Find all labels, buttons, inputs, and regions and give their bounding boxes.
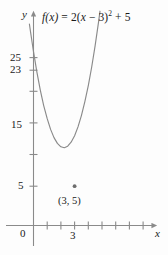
graph-figure: f(x) = 2(x − 3)2 + 5 25 23 15 5 0 3 y x … — [0, 0, 168, 255]
plot-canvas — [0, 0, 168, 255]
equation-minus-sign: − — [86, 11, 99, 23]
equation-equals: = — [58, 11, 71, 23]
vertex-coordinate-label: (3, 5) — [58, 196, 81, 207]
y-tick-label-5: 5 — [18, 180, 24, 191]
origin-label: 0 — [20, 228, 26, 239]
x-tick-label-3: 3 — [70, 230, 76, 241]
vertex-point-marker — [73, 184, 77, 188]
y-tick-label-23: 23 — [10, 64, 21, 75]
equation-constant: 5 — [125, 11, 131, 23]
y-tick-label-25: 25 — [10, 52, 21, 63]
x-axis-label: x — [155, 228, 160, 239]
parabola-curve — [29, 11, 100, 148]
y-axis-label: y — [22, 9, 27, 20]
equation-fvar: (x) — [45, 11, 58, 23]
function-equation-label: f(x) = 2(x − 3)2 + 5 — [42, 10, 131, 23]
y-tick-label-15: 15 — [11, 119, 22, 130]
equation-plus-sign: + — [112, 11, 125, 23]
